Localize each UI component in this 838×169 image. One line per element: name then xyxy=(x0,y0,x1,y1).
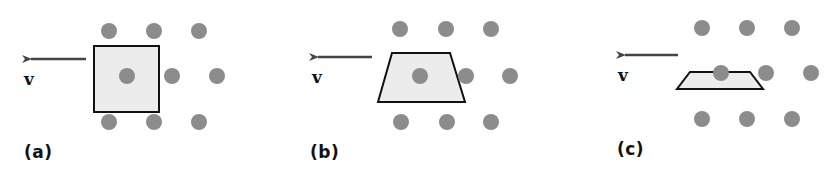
lattice-dot xyxy=(694,111,710,127)
lattice-dot xyxy=(392,21,408,37)
lattice-dot xyxy=(758,65,774,81)
lattice-dot xyxy=(784,20,800,36)
lattice-dot xyxy=(784,111,800,127)
lattice-dot xyxy=(439,114,455,130)
velocity-label-c: v xyxy=(618,65,628,85)
velocity-label-a: v xyxy=(24,69,34,89)
lattice-dot xyxy=(739,20,755,36)
lattice-dot xyxy=(119,68,135,84)
lattice-dot xyxy=(393,114,409,130)
panel-label-c: (c) xyxy=(617,139,644,159)
lattice-dot xyxy=(412,68,428,84)
lattice-dot xyxy=(146,23,162,39)
lattice-dot xyxy=(502,68,518,84)
lattice-dot xyxy=(191,23,207,39)
lattice-dot xyxy=(483,114,499,130)
lattice-dot xyxy=(483,21,499,37)
lattice-dot xyxy=(694,20,710,36)
panel-label-b: (b) xyxy=(310,142,339,162)
lattice-dot xyxy=(191,114,207,130)
lattice-dot xyxy=(146,114,162,130)
panel-a xyxy=(31,23,225,130)
length-contraction-diagram xyxy=(0,0,838,169)
lattice-dot xyxy=(101,23,117,39)
lattice-dot xyxy=(209,68,225,84)
lattice-dot xyxy=(164,68,180,84)
velocity-label-b: v xyxy=(312,67,322,87)
lattice-dot xyxy=(458,68,474,84)
panel-label-a: (a) xyxy=(24,142,53,162)
lattice-dot xyxy=(101,114,117,130)
lattice-dot xyxy=(438,21,454,37)
lattice-dot xyxy=(739,111,755,127)
panel-b xyxy=(318,21,518,130)
panel-c xyxy=(625,20,819,127)
lattice-dot xyxy=(713,65,729,81)
lattice-dot xyxy=(803,65,819,81)
